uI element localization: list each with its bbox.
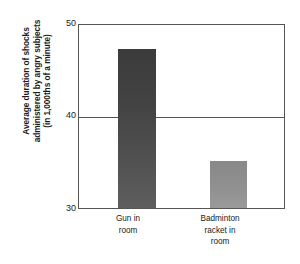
y-axis-title-line-2: administered by angry subjects (32, 20, 43, 143)
x-category-label-gun-line-1: Gun in (88, 213, 168, 225)
x-category-label-gun-in-room: Gun in room (88, 213, 168, 236)
x-category-label-gun-line-2: room (88, 225, 168, 237)
x-category-label-badminton-racket-in-room: Badminton racket in room (180, 213, 260, 248)
y-tick-label-50: 50 (50, 19, 76, 28)
y-axis-title-line-1: Average duration of shocks (21, 27, 32, 134)
y-tick-label-30: 30 (50, 204, 76, 213)
x-category-label-badminton-line-1: Badminton (180, 213, 260, 225)
x-category-label-badminton-line-3: room (180, 236, 260, 248)
bar-badminton-racket-in-room (210, 161, 247, 208)
bar-chart-figure: Average duration of shocks administered … (0, 0, 300, 264)
bar-gun-in-room (118, 49, 156, 208)
gridline-40 (79, 117, 284, 118)
x-category-label-badminton-line-2: racket in (180, 225, 260, 237)
y-tick-label-40: 40 (50, 111, 76, 120)
plot-area (78, 24, 285, 209)
